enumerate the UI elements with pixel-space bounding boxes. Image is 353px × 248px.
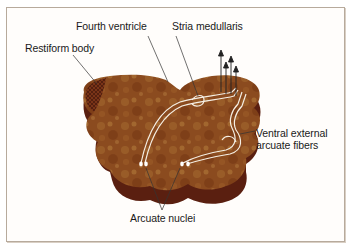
medulla-section-illustration (0, 0, 353, 248)
label-fourth-ventricle: Fourth ventricle (76, 20, 147, 32)
label-ventral-external-line2: arcuate fibers (256, 139, 318, 151)
label-restiform-body: Restiform body (25, 42, 94, 54)
label-ventral-external-line1: Ventral external (256, 127, 327, 139)
label-stria-medullaris: Stria medullaris (172, 20, 243, 32)
label-arcuate-nuclei: Arcuate nuclei (130, 212, 195, 224)
